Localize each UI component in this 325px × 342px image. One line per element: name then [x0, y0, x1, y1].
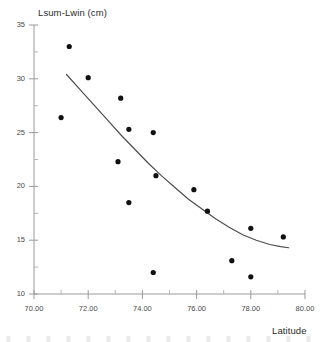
chart-screenshot: Lsum-Lwin (cm) Latitude 353025201510 70.…: [0, 0, 325, 342]
scatter-plot-canvas: [0, 0, 325, 342]
data-points-group: [59, 44, 286, 279]
data-point: [248, 226, 253, 231]
y-axis-title: Lsum-Lwin (cm): [38, 7, 107, 18]
data-point: [115, 159, 120, 164]
x-tick-label: 80.00: [288, 304, 322, 313]
x-tick-label: 78.00: [234, 304, 268, 313]
x-tick-label: 72.00: [71, 304, 105, 313]
data-point: [151, 130, 156, 135]
axes-group: [34, 25, 305, 294]
data-point: [151, 270, 156, 275]
data-point: [281, 234, 286, 239]
data-point: [86, 75, 91, 80]
y-tick-label: 25: [3, 128, 25, 137]
x-tick-label: 70.00: [17, 304, 51, 313]
fit-curve: [67, 75, 289, 248]
data-point: [229, 258, 234, 263]
y-tick-label: 30: [3, 74, 25, 83]
y-tick-label: 15: [3, 235, 25, 244]
data-point: [191, 187, 196, 192]
data-point: [59, 115, 64, 120]
y-tick-label: 35: [3, 20, 25, 29]
data-point: [126, 127, 131, 132]
fit-curve-path: [67, 75, 289, 248]
data-point: [118, 96, 123, 101]
y-tick-label: 20: [3, 181, 25, 190]
x-tick-label: 74.00: [125, 304, 159, 313]
data-point: [126, 200, 131, 205]
x-tick-label: 76.00: [180, 304, 214, 313]
data-point: [248, 274, 253, 279]
data-point: [67, 44, 72, 49]
page-scan-artifact: [0, 336, 325, 342]
y-tick-label: 10: [3, 289, 25, 298]
x-axis-title: Latitude: [272, 325, 307, 336]
data-point: [153, 173, 158, 178]
data-point: [205, 209, 210, 214]
